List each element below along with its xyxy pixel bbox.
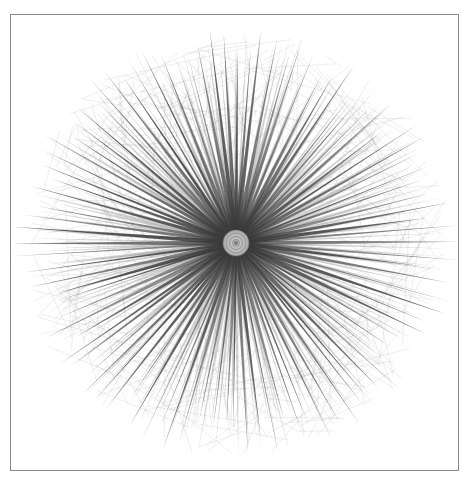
chord-edge [346,360,392,387]
chord-edge [44,130,60,190]
chord-edge [57,123,77,166]
chord-edge [297,50,298,157]
chord-edge [34,257,70,332]
chord-edge [162,347,238,421]
chord-edge [225,401,232,425]
chord-edge [271,342,367,453]
chord-edge [298,118,411,119]
chord-edge [66,205,71,339]
chord-edge [301,369,396,426]
central-hub [223,230,249,256]
chord-edge [327,56,343,68]
primary-spoke [248,241,458,246]
hub-center [234,241,238,245]
chord-edge [263,44,295,60]
chord-edge [377,225,407,321]
chord-edge [167,394,233,410]
chord-edge [376,268,412,329]
chord-edge [335,345,390,380]
chord-edge [81,99,123,106]
chord-edge [64,127,72,165]
chord-edge [105,45,256,79]
chord-edge [97,70,157,162]
chord-edge [298,431,334,432]
chord-edge [308,331,364,439]
chord-edge [285,415,304,424]
chord-edge [264,417,346,418]
radial-graph [0,0,468,481]
chord-edge [30,117,106,246]
chord-edge [343,374,363,400]
chord-edge [70,93,134,114]
chord-edge [198,432,241,447]
chord-edge [345,150,399,152]
chord-edge [402,201,445,273]
chord-edge [295,72,376,124]
